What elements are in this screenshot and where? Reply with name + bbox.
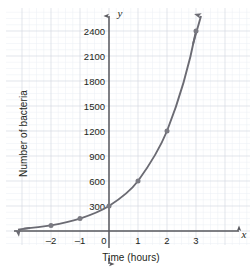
x-axis-title: Time (hours) [66, 252, 196, 263]
data-point [194, 29, 199, 34]
y-tick-label: 1500 [84, 101, 105, 112]
data-point [49, 223, 54, 228]
x-tick-label: 1 [135, 235, 140, 246]
x-tick-label: –2 [46, 235, 57, 246]
y-axis-title: Number of bacteria [18, 64, 29, 204]
y-tick-label: 1200 [84, 126, 105, 137]
data-point [136, 179, 141, 184]
data-point [165, 129, 170, 134]
y-tick-label: 1800 [84, 76, 105, 87]
chart-plot-area: y x 2400 2100 1800 1500 1200 900 600 300… [0, 0, 252, 272]
x-tick-label: 3 [193, 235, 198, 246]
x-tick-label: 0 [101, 235, 106, 246]
data-point [107, 204, 112, 209]
y-tick-label: 600 [89, 176, 105, 187]
y-tick-label: 2400 [84, 26, 105, 37]
x-tick-label: –1 [75, 235, 86, 246]
y-tick-label: 2100 [84, 51, 105, 62]
x-axis-letter: x [241, 228, 247, 240]
data-point [78, 216, 83, 221]
y-tick-label: 900 [89, 151, 105, 162]
y-axis-letter: y [117, 7, 123, 19]
bacteria-growth-chart: y x 2400 2100 1800 1500 1200 900 600 300… [0, 0, 252, 272]
x-tick-label: 2 [164, 235, 169, 246]
